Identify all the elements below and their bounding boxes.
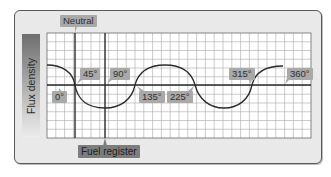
fuel-register-label: Fuel register bbox=[78, 145, 140, 158]
flux-plot bbox=[0, 0, 331, 177]
neutral-label: Neutral bbox=[60, 15, 97, 27]
angle-label-45: 45° bbox=[80, 68, 100, 80]
angle-label-0: 0° bbox=[52, 91, 67, 103]
angle-label-315: 315° bbox=[229, 68, 255, 80]
angle-label-135: 135° bbox=[139, 91, 165, 103]
angle-label-225: 225° bbox=[167, 91, 193, 103]
angle-label-90: 90° bbox=[110, 68, 130, 80]
angle-label-360: 360° bbox=[287, 68, 313, 80]
